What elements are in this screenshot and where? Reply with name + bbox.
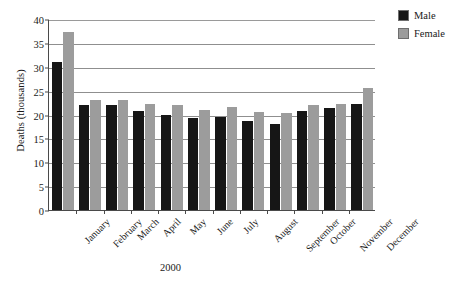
x-tick-mark: [104, 210, 105, 214]
bar-group: [76, 20, 103, 210]
plot-area: 0510152025303540: [48, 20, 375, 211]
bar-female: [281, 113, 292, 210]
bars-layer: [49, 20, 375, 210]
bar-male: [297, 111, 308, 210]
x-tick-label: July: [241, 216, 261, 236]
legend-item-female: Female: [398, 28, 445, 39]
y-tick-label: 15: [4, 134, 44, 145]
male-swatch-icon: [398, 10, 409, 21]
x-tick-label: June: [214, 216, 235, 237]
bar-male: [215, 117, 226, 210]
bar-female: [308, 105, 319, 210]
y-tick-label: 20: [4, 110, 44, 121]
x-tick-mark: [294, 210, 295, 214]
y-tick-label: 35: [4, 38, 44, 49]
bar-group: [104, 20, 131, 210]
bar-female: [254, 112, 265, 210]
y-tick-label: 40: [4, 15, 44, 26]
x-tick-mark: [185, 210, 186, 214]
bar-female: [227, 107, 238, 210]
x-tick-mark: [76, 210, 77, 214]
bar-female: [145, 104, 156, 210]
y-tick-label: 25: [4, 86, 44, 97]
bar-group: [294, 20, 321, 210]
bar-female: [199, 110, 210, 210]
bar-male: [79, 105, 90, 210]
bar-male: [133, 111, 144, 210]
bar-male: [52, 62, 63, 210]
x-tick-mark: [240, 210, 241, 214]
bar-male: [188, 118, 199, 210]
x-tick-mark: [322, 210, 323, 214]
x-tick-mark: [349, 210, 350, 214]
bar-female: [63, 32, 74, 210]
bar-group: [349, 20, 376, 210]
y-tick-mark: [45, 211, 49, 212]
bar-chart: Deaths (thousands) 0510152025303540 Janu…: [0, 0, 467, 289]
bar-group: [158, 20, 185, 210]
bar-female: [90, 100, 101, 210]
bar-male: [324, 108, 335, 210]
bar-group: [240, 20, 267, 210]
legend-item-male: Male: [398, 10, 445, 21]
bar-female: [118, 100, 129, 210]
bar-female: [363, 88, 374, 210]
y-tick-label: 0: [4, 206, 44, 217]
bar-female: [172, 105, 183, 210]
x-tick-mark: [158, 210, 159, 214]
x-tick-mark: [131, 210, 132, 214]
bar-male: [270, 124, 281, 210]
x-tick-label: May: [187, 216, 208, 237]
bar-group: [322, 20, 349, 210]
y-tick-label: 10: [4, 158, 44, 169]
bar-group: [185, 20, 212, 210]
x-tick-label: August: [272, 216, 300, 244]
bar-male: [351, 104, 362, 210]
x-tick-mark: [267, 210, 268, 214]
bar-male: [161, 115, 172, 211]
legend-label-female: Female: [414, 28, 445, 39]
y-tick-label: 5: [4, 182, 44, 193]
bar-male: [106, 105, 117, 210]
x-tick-mark: [213, 210, 214, 214]
bar-group: [49, 20, 76, 210]
x-tick-label: January: [82, 216, 112, 246]
bar-group: [131, 20, 158, 210]
bar-group: [213, 20, 240, 210]
bar-female: [336, 104, 347, 210]
x-axis-title: 2000: [160, 262, 181, 273]
bar-group: [267, 20, 294, 210]
x-tick-label: April: [161, 216, 184, 239]
female-swatch-icon: [398, 28, 409, 39]
y-tick-label: 30: [4, 62, 44, 73]
legend-label-male: Male: [414, 10, 436, 21]
bar-male: [242, 121, 253, 210]
chart-legend: Male Female: [398, 10, 445, 46]
